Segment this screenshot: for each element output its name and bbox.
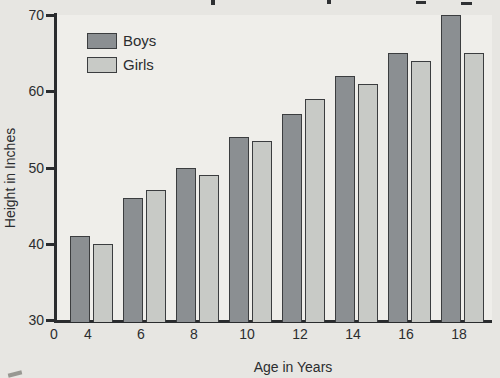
- bar-boys-age-8: [176, 168, 196, 323]
- bar-boys-age-18: [441, 15, 461, 322]
- bar-girls-age-18: [464, 53, 484, 322]
- bar-girls-age-6: [146, 190, 166, 322]
- bar-girls-age-10: [252, 141, 272, 322]
- bar-girls-age-16: [411, 61, 431, 322]
- y-tick-30: [46, 319, 55, 322]
- y-tick-40: [46, 243, 55, 246]
- bar-girls-age-14: [358, 84, 378, 322]
- legend-label-girls: Girls: [123, 57, 154, 73]
- y-tick-70: [46, 14, 55, 17]
- y-tick-label-50: 50: [14, 161, 44, 175]
- y-tick-label-60: 60: [14, 84, 44, 98]
- y-tick-label-40: 40: [14, 237, 44, 251]
- bar-boys-age-16: [388, 53, 408, 322]
- bar-boys-age-12: [282, 114, 302, 322]
- x-tick-label-10: 10: [232, 327, 262, 341]
- x-axis-title: Age in Years: [213, 359, 373, 375]
- y-tick-50: [46, 167, 55, 170]
- x-tick-label-16: 16: [391, 327, 421, 341]
- y-axis-title: Height in Inches: [2, 113, 18, 243]
- bar-girls-age-4: [93, 244, 113, 322]
- x-tick-label-6: 6: [126, 327, 156, 341]
- legend-label-boys: Boys: [123, 33, 156, 49]
- bar-girls-age-8: [199, 175, 219, 322]
- bar-boys-age-10: [229, 137, 249, 322]
- bar-boys-age-6: [123, 198, 143, 322]
- y-tick-label-70: 70: [14, 8, 44, 22]
- bottom-left-scan-mark: [8, 370, 23, 377]
- bar-girls-age-12: [305, 99, 325, 322]
- bar-boys-age-14: [335, 76, 355, 322]
- y-tick-60: [46, 90, 55, 93]
- x-tick-label-8: 8: [179, 327, 209, 341]
- bar-chart-figure: Height in Inches 30405060700468101214161…: [0, 0, 500, 378]
- legend: Boys Girls: [87, 33, 156, 81]
- x-tick-label-18: 18: [444, 327, 474, 341]
- boys-swatch-icon: [87, 33, 117, 49]
- girls-swatch-icon: [87, 57, 117, 73]
- cropped-title-fragment-2: [416, 1, 426, 4]
- bar-boys-age-4: [70, 236, 90, 322]
- x-tick-label-0: 0: [39, 327, 69, 341]
- x-tick-label-4: 4: [73, 327, 103, 341]
- y-tick-label-30: 30: [14, 313, 44, 327]
- cropped-title-fragment-0: [211, 0, 215, 5]
- cropped-title-fragment-1: [327, 0, 331, 4]
- cropped-title-fragment-3: [461, 2, 472, 5]
- x-tick-label-12: 12: [285, 327, 315, 341]
- legend-item-girls: Girls: [87, 57, 156, 73]
- x-tick-label-14: 14: [338, 327, 368, 341]
- legend-item-boys: Boys: [87, 33, 156, 49]
